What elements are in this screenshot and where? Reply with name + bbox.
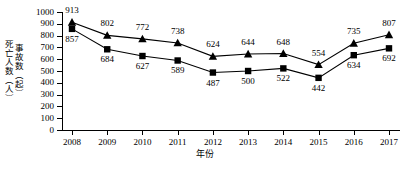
data-point-marker-square <box>69 26 75 32</box>
data-label: 735 <box>337 27 371 36</box>
data-label: 624 <box>196 40 230 49</box>
data-label: 500 <box>231 77 265 86</box>
data-label: 857 <box>55 35 89 44</box>
data-point-marker-square <box>386 45 392 51</box>
data-label: 634 <box>337 61 371 70</box>
data-point-marker-square <box>210 69 216 75</box>
data-point-marker-square <box>104 46 110 52</box>
data-point-marker-square <box>280 65 286 71</box>
data-label: 627 <box>125 62 159 71</box>
data-label: 772 <box>125 23 159 32</box>
data-label: 802 <box>90 19 124 28</box>
data-label: 648 <box>266 38 300 47</box>
data-point-marker-triangle <box>103 31 111 39</box>
data-label: 692 <box>372 54 406 63</box>
data-label: 913 <box>55 6 89 15</box>
data-label: 684 <box>90 55 124 64</box>
data-point-marker-triangle <box>68 18 76 26</box>
data-point-marker-triangle <box>385 31 393 39</box>
data-point-marker-square <box>315 75 321 81</box>
line-chart: 死亡人数（人） 事故数（起） 1000900800700600500400300… <box>0 0 409 171</box>
data-point-marker-square <box>351 52 357 58</box>
data-label: 807 <box>372 19 406 28</box>
data-point-marker-square <box>174 57 180 63</box>
data-label: 554 <box>302 49 336 58</box>
data-label: 644 <box>231 38 265 47</box>
data-point-marker-square <box>245 68 251 74</box>
data-point-marker-square <box>139 53 145 59</box>
data-label: 487 <box>196 79 230 88</box>
x-axis-title: 年份 <box>0 149 409 159</box>
data-label: 442 <box>302 84 336 93</box>
data-label: 738 <box>161 27 195 36</box>
data-label: 522 <box>266 74 300 83</box>
data-label: 589 <box>161 66 195 75</box>
